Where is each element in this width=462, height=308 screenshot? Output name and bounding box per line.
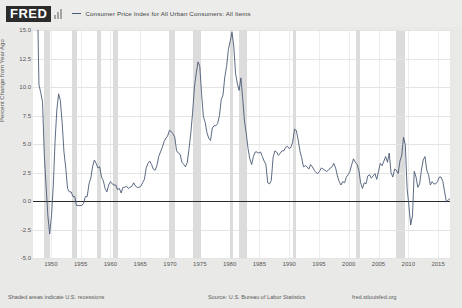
plot-area[interactable] [33, 30, 450, 258]
x-axis-tick-label: 1980 [223, 261, 236, 267]
series-line [34, 30, 450, 234]
line-swatch-icon [72, 13, 81, 14]
x-axis-tick-label: 2010 [402, 261, 415, 267]
y-axis-tick-label: 0.0 [1, 198, 31, 204]
x-axis-tick-label: 2015 [431, 261, 444, 267]
x-axis-tick-label: 2005 [372, 261, 385, 267]
fred-chart-panel: FRED Consumer Price Index for All Urban … [0, 0, 462, 308]
chart-footer: Shaded areas indicate U.S. recessions So… [0, 291, 462, 305]
y-axis-tick-label: 15.0 [1, 27, 31, 33]
x-axis-tick-label: 1960 [104, 261, 117, 267]
recession-note: Shaded areas indicate U.S. recessions [8, 294, 104, 300]
y-axis-tick-label: 12.5 [1, 56, 31, 62]
y-axis-tick-label: -5.0 [1, 255, 31, 261]
bar-chart-icon [54, 8, 63, 19]
x-axis-tick-label: 1965 [134, 261, 147, 267]
chart-header: FRED Consumer Price Index for All Urban … [0, 0, 462, 27]
y-axis-tick-label: 10.0 [1, 84, 31, 90]
x-axis: 1950195519601965197019751980198519901995… [33, 259, 450, 271]
data-source-label: Source: U.S. Bureau of Labor Statistics [208, 294, 305, 300]
y-axis-tick-label: -2.5 [1, 227, 31, 233]
fred-logo[interactable]: FRED [6, 6, 51, 22]
x-axis-tick-label: 1950 [44, 261, 57, 267]
x-axis-tick-label: 1990 [282, 261, 295, 267]
x-axis-tick-label: 1975 [193, 261, 206, 267]
x-axis-tick-label: 2000 [342, 261, 355, 267]
series-line-chart [33, 30, 450, 258]
x-axis-tick-label: 1985 [253, 261, 266, 267]
chart-legend[interactable]: Consumer Price Index for All Urban Consu… [72, 10, 250, 17]
x-axis-tick-label: 1955 [74, 261, 87, 267]
y-axis-tick-label: 5.0 [1, 141, 31, 147]
y-axis-tick-label: 2.5 [1, 170, 31, 176]
x-axis-tick-label: 1970 [163, 261, 176, 267]
y-axis-title: Percent Change from Year Ago [0, 39, 5, 122]
legend-series-label: Consumer Price Index for All Urban Consu… [85, 10, 250, 17]
y-axis: Percent Change from Year Ago 15.012.510.… [0, 30, 31, 258]
y-axis-tick-label: 7.5 [1, 113, 31, 119]
fred-url-label[interactable]: fred.stlouisfed.org [352, 294, 396, 300]
x-axis-tick-label: 1995 [312, 261, 325, 267]
